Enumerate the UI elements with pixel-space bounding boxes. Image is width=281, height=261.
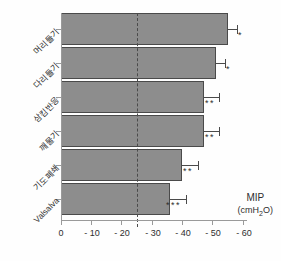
x-axis-title: MIP (cmH2O) bbox=[238, 192, 273, 220]
significance-marker: * bbox=[238, 31, 243, 40]
error-bar-cap bbox=[219, 127, 220, 136]
x-axis-line bbox=[61, 220, 247, 221]
x-axis-tick bbox=[152, 220, 153, 225]
y-axis-line bbox=[61, 13, 62, 220]
plot-area: * * ** ** ** bbox=[61, 13, 243, 220]
x-axis-tick-label: - 30 bbox=[145, 228, 161, 238]
y-axis-category-label: 기도폐쇄 bbox=[30, 162, 61, 193]
bar bbox=[61, 149, 182, 181]
x-axis-tick-label: 0 bbox=[58, 228, 63, 238]
significance-marker: ** bbox=[205, 99, 215, 108]
bar bbox=[61, 47, 216, 79]
x-axis-tick-label: - 20 bbox=[114, 228, 130, 238]
error-bar bbox=[228, 29, 237, 30]
x-axis-tick bbox=[61, 220, 62, 225]
significance-marker: * bbox=[226, 65, 231, 74]
x-axis-tick bbox=[182, 220, 183, 225]
x-axis-tick-label: - 50 bbox=[205, 228, 221, 238]
significance-marker: ** bbox=[183, 167, 193, 176]
bar bbox=[61, 183, 170, 215]
significance-marker: *** bbox=[166, 201, 181, 210]
error-bar-cap bbox=[198, 161, 199, 170]
x-axis-tick bbox=[212, 220, 213, 225]
y-axis-category-label: 머리들기 bbox=[30, 26, 61, 57]
bar bbox=[61, 13, 228, 45]
y-axis-category-label: 깨물기 bbox=[36, 128, 61, 153]
x-axis-tick-label: - 40 bbox=[175, 228, 191, 238]
x-axis-title-unit: (cmH2O) bbox=[238, 204, 273, 220]
error-bar bbox=[216, 63, 225, 64]
bar bbox=[61, 81, 204, 113]
x-axis-tick bbox=[243, 220, 244, 225]
significance-marker: ** bbox=[205, 133, 215, 142]
x-axis-tick bbox=[91, 220, 92, 225]
x-axis-tick-label: - 10 bbox=[84, 228, 100, 238]
y-axis-category-label: 삼킴반응 bbox=[30, 94, 61, 125]
error-bar-cap bbox=[219, 93, 220, 102]
bar bbox=[61, 115, 204, 147]
reference-line bbox=[137, 13, 138, 227]
x-axis-tick-label: - 60 bbox=[236, 228, 252, 238]
y-axis-category-label: Valsalva bbox=[31, 195, 60, 224]
error-bar-cap bbox=[186, 195, 187, 204]
x-axis-tick bbox=[121, 220, 122, 225]
chart-figure: * * ** ** ** bbox=[0, 0, 281, 261]
y-axis-category-label: 다리들기 bbox=[30, 60, 61, 91]
x-axis-title-main: MIP bbox=[238, 192, 273, 204]
